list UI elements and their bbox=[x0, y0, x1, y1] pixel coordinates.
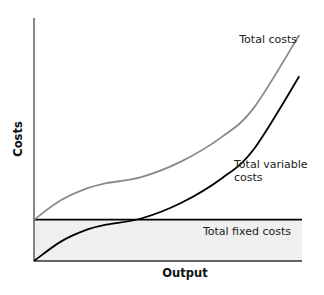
total-costs-label: Total costs bbox=[238, 33, 297, 46]
total-fixed-costs-label: Total fixed costs bbox=[202, 225, 291, 238]
total-variable-costs-label-line2: costs bbox=[234, 171, 263, 184]
total-variable-costs-label-line1: Total variable bbox=[233, 158, 308, 171]
cost-curves-chart: Total costs Total variable costs Total f… bbox=[0, 0, 324, 295]
y-axis-title: Costs bbox=[11, 121, 25, 157]
x-axis-title: Output bbox=[162, 266, 208, 280]
total-costs-line bbox=[34, 35, 299, 220]
